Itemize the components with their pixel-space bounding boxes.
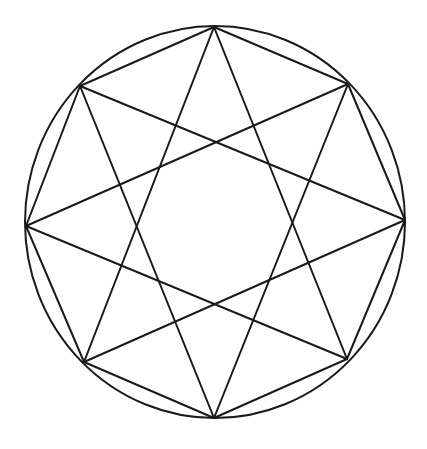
octagram-diagram bbox=[0, 0, 427, 449]
octagram-svg bbox=[0, 0, 427, 449]
star-line bbox=[214, 27, 347, 359]
star-line bbox=[84, 27, 214, 362]
